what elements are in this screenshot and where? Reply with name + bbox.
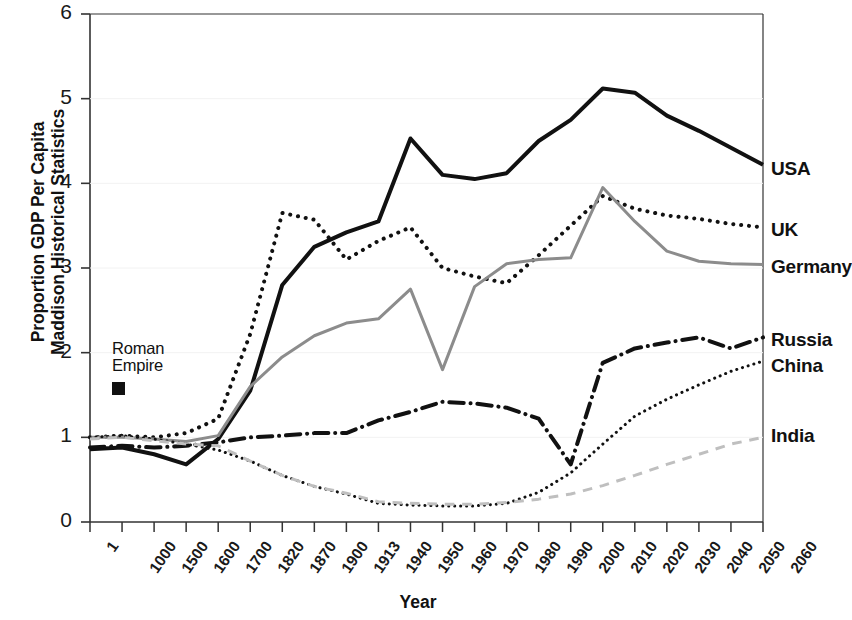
y-tick-label: 1 <box>32 423 72 447</box>
roman-empire-annotation: Roman Empire <box>112 340 164 375</box>
y-tick-label: 2 <box>32 339 72 363</box>
series-line-china <box>90 361 763 506</box>
roman-empire-marker <box>112 382 125 395</box>
y-tick-label: 6 <box>32 0 72 24</box>
series-line-germany <box>90 188 763 442</box>
series-label-usa: USA <box>771 158 811 180</box>
series-label-russia: Russia <box>771 329 832 351</box>
y-tick-label: 3 <box>32 254 72 278</box>
series-lines <box>90 89 763 506</box>
y-axis-title: Proportion GDP Per Capita Maddison Histo… <box>29 0 69 467</box>
series-line-uk <box>90 196 763 437</box>
axes <box>81 14 763 532</box>
series-label-germany: Germany <box>771 256 852 278</box>
series-line-india <box>90 437 763 504</box>
series-label-china: China <box>771 355 823 377</box>
y-tick-label: 0 <box>32 508 72 532</box>
series-label-uk: UK <box>771 219 798 241</box>
x-axis-title: Year <box>0 592 836 613</box>
y-tick-label: 4 <box>32 169 72 193</box>
y-tick-label: 5 <box>32 85 72 109</box>
series-label-india: India <box>771 425 814 447</box>
